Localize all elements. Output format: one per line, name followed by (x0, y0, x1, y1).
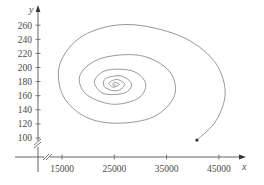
x-tick-label: 15000 (50, 164, 74, 174)
y-tick-label: 100 (18, 133, 33, 143)
y-axis: y 100120140160180200220240260 (18, 4, 41, 172)
x-tick-label: 35000 (155, 164, 179, 174)
trajectory-curve (58, 24, 225, 140)
x-axis: x 15000250003500045000 (15, 154, 247, 174)
y-ticks: 100120140160180200220240260 (18, 21, 41, 144)
y-axis-break-icon (34, 139, 41, 148)
x-tick-label: 45000 (207, 164, 231, 174)
y-tick-label: 200 (18, 63, 33, 73)
phase-plane-chart: y 100120140160180200220240260 x 15000250… (0, 0, 264, 185)
x-tick-label: 25000 (102, 164, 126, 174)
y-tick-label: 260 (18, 21, 33, 31)
y-axis-label: y (28, 4, 34, 15)
y-tick-label: 220 (18, 49, 33, 59)
y-tick-label: 180 (18, 77, 33, 87)
y-axis-arrow-icon (36, 5, 41, 12)
y-tick-label: 140 (18, 105, 33, 115)
start-point-marker (195, 139, 198, 142)
y-tick-label: 160 (18, 91, 33, 101)
x-axis-arrow-icon (239, 155, 246, 160)
x-axis-label: x (241, 161, 247, 172)
y-tick-label: 240 (18, 35, 33, 45)
y-tick-label: 120 (18, 119, 33, 129)
